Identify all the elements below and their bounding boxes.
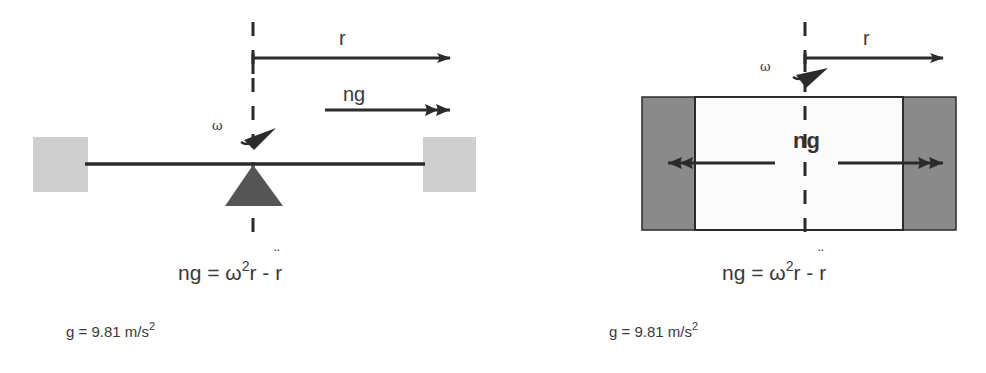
gravity-text: g = 9.81 m/s	[609, 323, 692, 340]
equation-lhs: ng =	[178, 261, 225, 284]
omega-arrowhead-right	[796, 68, 828, 88]
exponent: 2	[786, 258, 794, 274]
right-mass-block	[423, 137, 476, 192]
rotating-beam-diagram	[33, 22, 476, 246]
r-double-dot: r	[819, 261, 826, 285]
gravity-exponent: 2	[149, 320, 155, 332]
r-double-dot: r	[275, 261, 282, 285]
exponent: 2	[242, 258, 250, 274]
equation: ng = ω2r - r	[178, 258, 282, 285]
omega-label: ω	[760, 59, 771, 74]
pivot-triangle	[225, 165, 283, 206]
radius-label: r	[863, 27, 870, 50]
equation-lhs: ng =	[722, 261, 769, 284]
gravity-value: g = 9.81 m/s2	[66, 320, 155, 340]
omega-arrowhead-left	[244, 128, 276, 150]
gravity-value: g = 9.81 m/s2	[609, 320, 698, 340]
left-mass-block	[33, 137, 88, 192]
equation-r: r -	[794, 261, 820, 284]
equation: ng = ω2r - r	[722, 258, 826, 285]
force-label: ng	[793, 128, 820, 154]
force-label: ng	[343, 83, 365, 106]
equation-r: r -	[250, 261, 276, 284]
radius-label: r	[339, 27, 346, 50]
omega-symbol: ω	[225, 261, 241, 284]
omega-label: ω	[212, 118, 223, 133]
gravity-exponent: 2	[692, 320, 698, 332]
gravity-text: g = 9.81 m/s	[66, 323, 149, 340]
omega-symbol: ω	[769, 261, 785, 284]
diagram-canvas	[0, 0, 986, 373]
